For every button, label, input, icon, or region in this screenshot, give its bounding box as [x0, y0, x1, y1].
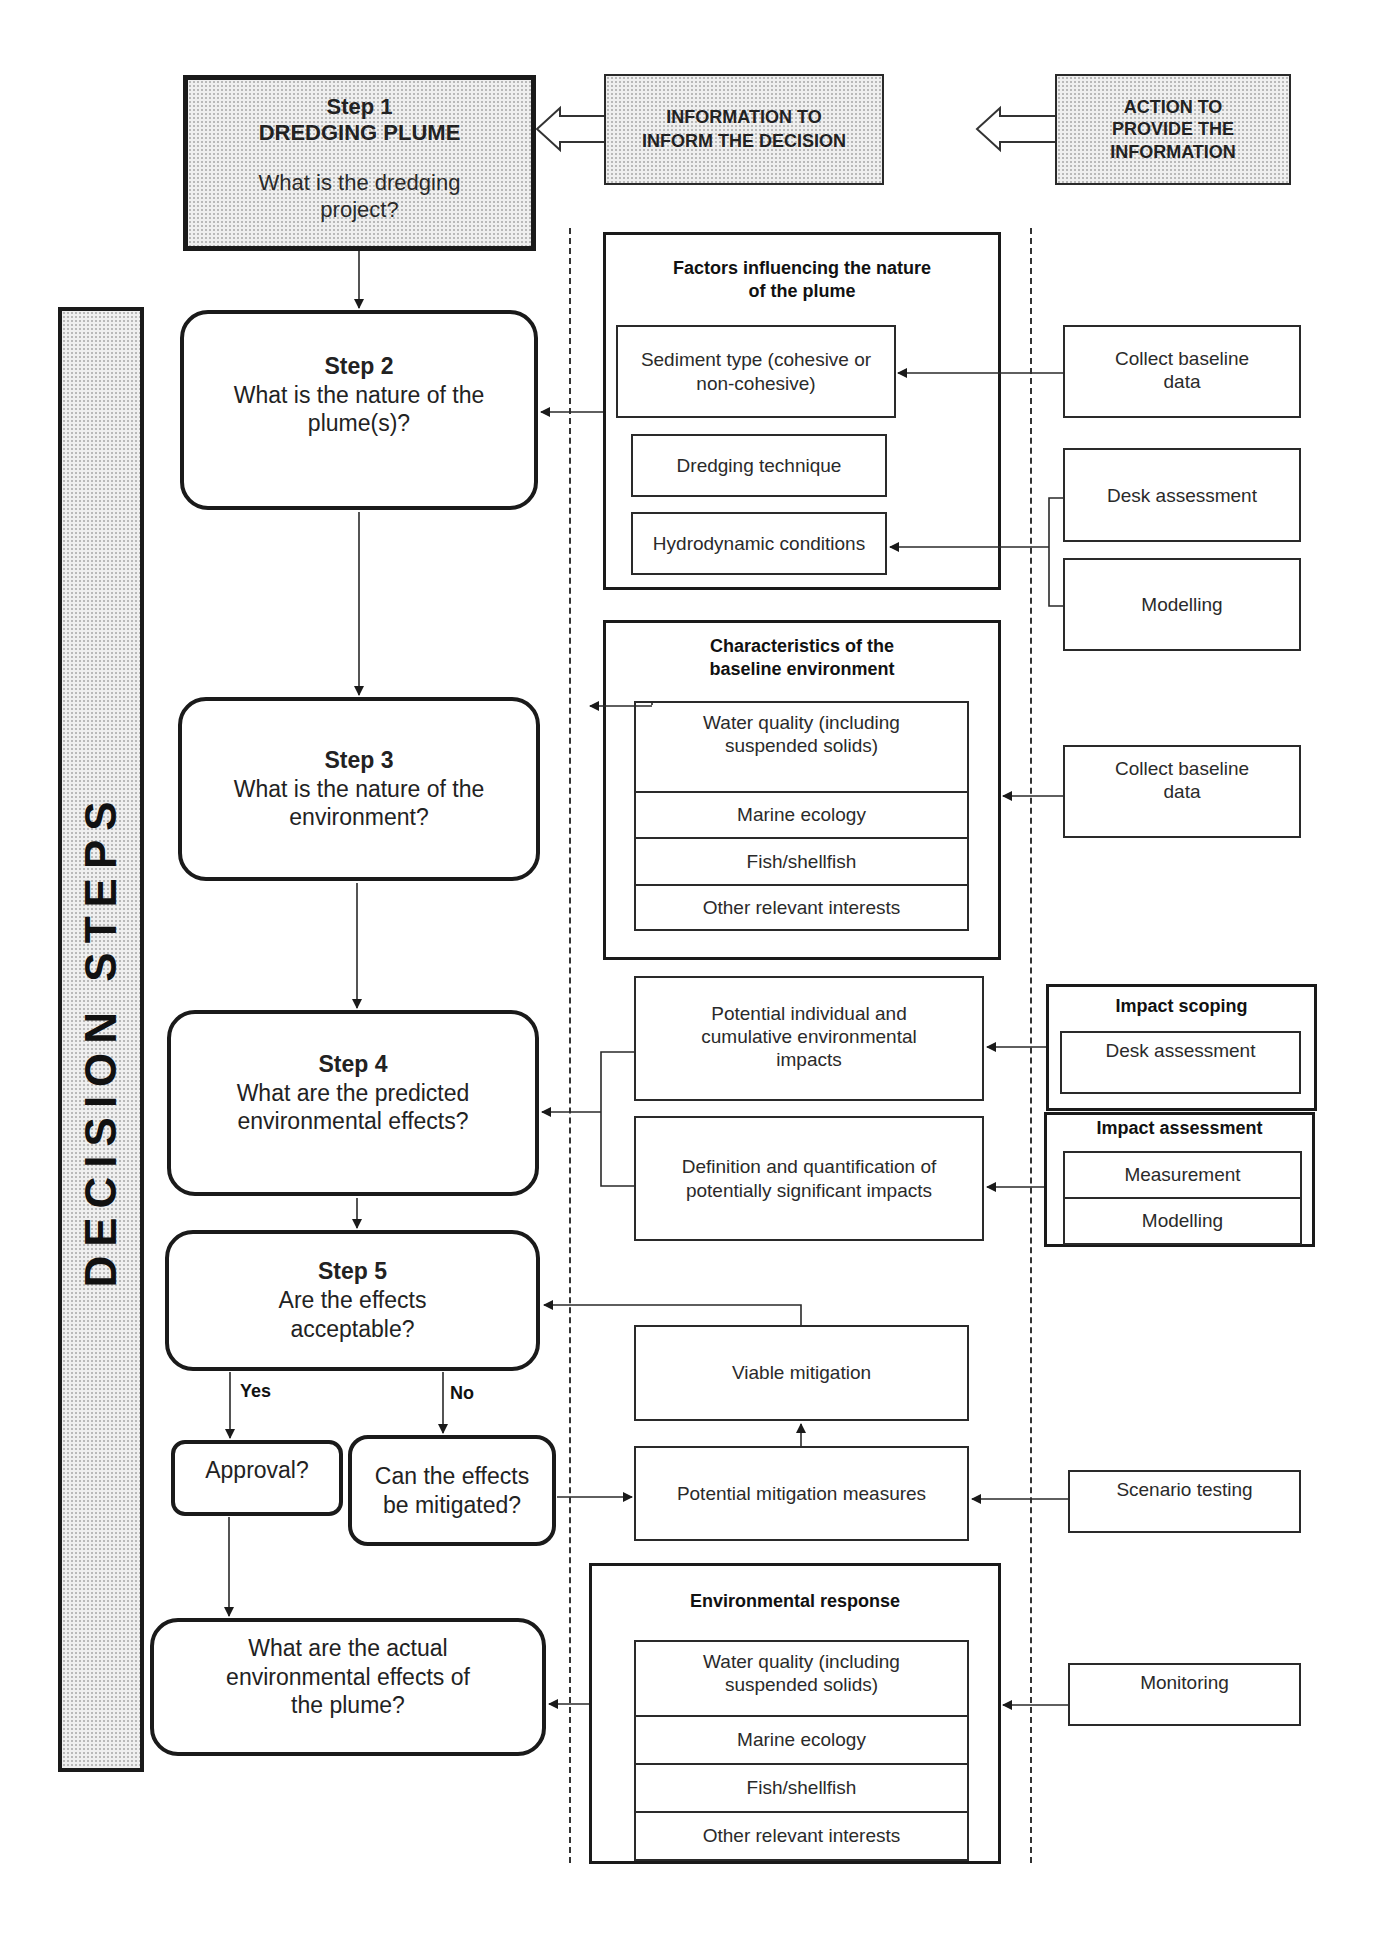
actual-effects-box: What are the actual environmental effect… — [150, 1618, 546, 1756]
step4-title: Step 4 — [318, 1050, 387, 1079]
step5-question: Are the effects acceptable? — [253, 1286, 453, 1344]
impact-assessment-title: Impact assessment — [1047, 1117, 1312, 1140]
step4-box: Step 4 What are the predicted environmen… — [167, 1010, 539, 1196]
step2-question: What is the nature of the plume(s)? — [224, 381, 494, 439]
action-column-title: ACTION TO PROVIDE THE INFORMATION — [1088, 96, 1258, 164]
potential-mitigation-measures: Potential mitigation measures — [634, 1446, 969, 1541]
action-collect-baseline-data-1: Collect baseline data — [1063, 325, 1301, 418]
yes-label: Yes — [240, 1381, 271, 1402]
can-mitigate-text: Can the effects be mitigated? — [372, 1462, 532, 1520]
factor-dredging-technique: Dredging technique — [631, 434, 887, 497]
action-modelling: Modelling — [1063, 558, 1301, 651]
step3-question: What is the nature of the environment? — [209, 775, 509, 833]
step1-question: What is the dredging project? — [245, 169, 475, 224]
info-column-title: INFORMATION TO INFORM THE DECISION — [629, 106, 859, 153]
impact-assessment-modelling: Modelling — [1063, 1197, 1302, 1245]
viable-mitigation: Viable mitigation — [634, 1325, 969, 1421]
step1-subtitle: DREDGING PLUME — [259, 120, 461, 146]
factor-hydrodynamic-conditions: Hydrodynamic conditions — [631, 512, 887, 575]
baseline-title: Characteristics of the baseline environm… — [606, 635, 998, 680]
hollow-arrow-action-to-info — [977, 108, 1055, 150]
definition-significant-impacts: Definition and quantification of potenti… — [634, 1116, 984, 1241]
step5-box: Step 5 Are the effects acceptable? — [165, 1230, 540, 1371]
action-desk-assessment: Desk assessment — [1063, 448, 1301, 542]
action-column-header: ACTION TO PROVIDE THE INFORMATION — [1055, 74, 1291, 185]
step1-box: Step 1 DREDGING PLUME What is the dredgi… — [183, 75, 536, 251]
step2-title: Step 2 — [324, 352, 393, 381]
approval-box: Approval? — [171, 1440, 343, 1516]
actual-effects-text: What are the actual environmental effect… — [208, 1634, 488, 1720]
can-mitigate-box: Can the effects be mitigated? — [348, 1435, 556, 1546]
step4-question: What are the predicted environmental eff… — [203, 1079, 503, 1137]
step1-title: Step 1 — [326, 94, 392, 120]
impact-assessment-measurement: Measurement — [1063, 1151, 1302, 1199]
column-divider-left — [569, 228, 571, 1863]
baseline-other-interests: Other relevant interests — [634, 884, 969, 931]
decision-steps-bar: DECISION STEPS — [58, 307, 144, 1772]
environmental-response-title: Environmental response — [592, 1590, 998, 1613]
baseline-fish-shellfish: Fish/shellfish — [634, 837, 969, 886]
approval-text: Approval? — [205, 1456, 309, 1485]
no-label: No — [450, 1383, 474, 1404]
response-marine-ecology: Marine ecology — [634, 1715, 969, 1765]
hollow-arrow-info-to-step1 — [537, 108, 604, 150]
response-fish-shellfish: Fish/shellfish — [634, 1763, 969, 1813]
decision-steps-label: DECISION STEPS — [76, 792, 126, 1287]
step3-box: Step 3 What is the nature of the environ… — [178, 697, 540, 881]
baseline-marine-ecology: Marine ecology — [634, 791, 969, 839]
step3-title: Step 3 — [324, 746, 393, 775]
response-other-interests: Other relevant interests — [634, 1811, 969, 1861]
step5-title: Step 5 — [318, 1257, 387, 1286]
response-water-quality: Water quality (including suspended solid… — [634, 1640, 969, 1717]
factor-sediment-type: Sediment type (cohesive or non-cohesive) — [616, 325, 896, 418]
potential-impacts: Potential individual and cumulative envi… — [634, 976, 984, 1101]
step2-box: Step 2 What is the nature of the plume(s… — [180, 310, 538, 510]
action-monitoring: Monitoring — [1068, 1663, 1301, 1726]
factors-title: Factors influencing the nature of the pl… — [606, 257, 998, 302]
action-scenario-testing: Scenario testing — [1068, 1470, 1301, 1533]
impact-scoping-desk-assessment: Desk assessment — [1060, 1031, 1301, 1094]
action-collect-baseline-data-2: Collect baseline data — [1063, 745, 1301, 838]
info-column-header: INFORMATION TO INFORM THE DECISION — [604, 74, 884, 185]
baseline-water-quality: Water quality (including suspended solid… — [634, 701, 969, 793]
impact-scoping-title: Impact scoping — [1049, 995, 1314, 1018]
column-divider-right — [1030, 228, 1032, 1863]
